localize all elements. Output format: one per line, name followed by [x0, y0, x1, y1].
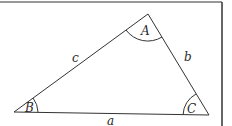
triangle-shape	[14, 14, 209, 115]
side-label-a: a	[107, 114, 114, 126]
vertex-label-c: C	[187, 102, 196, 116]
vertex-label-a: A	[140, 24, 150, 38]
side-label-c: c	[72, 51, 79, 65]
vertex-label-b: B	[24, 101, 34, 115]
side-label-b: b	[184, 50, 192, 64]
triangle-diagram: A B C a b c	[0, 0, 232, 126]
